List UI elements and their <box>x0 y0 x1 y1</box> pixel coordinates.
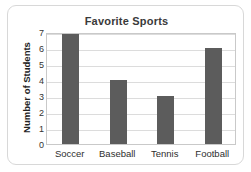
chart-card: Favorite Sports Number of Students 01234… <box>7 5 244 165</box>
bar-soccer <box>62 33 79 144</box>
y-tick-label: 3 <box>30 92 44 102</box>
bar-baseball <box>110 80 127 144</box>
y-tick-label: 6 <box>30 44 44 54</box>
plot-wrapper <box>46 33 236 145</box>
plot-area <box>46 33 236 145</box>
y-tick-label: 4 <box>30 76 44 86</box>
y-tick-label: 1 <box>30 124 44 134</box>
x-tick-label-tennis: Tennis <box>151 148 178 159</box>
x-tick-label-soccer: Soccer <box>55 148 85 159</box>
y-tick-label: 0 <box>30 140 44 150</box>
y-tick-label: 5 <box>30 60 44 70</box>
bar-football <box>205 48 222 144</box>
y-tick-label: 2 <box>30 108 44 118</box>
y-axis-ticks: 01234567 <box>26 33 44 145</box>
x-tick-label-football: Football <box>195 148 229 159</box>
chart-title: Favorite Sports <box>8 15 245 27</box>
y-tick-label: 7 <box>30 28 44 38</box>
bar-tennis <box>157 96 174 144</box>
x-tick-label-baseball: Baseball <box>99 148 135 159</box>
